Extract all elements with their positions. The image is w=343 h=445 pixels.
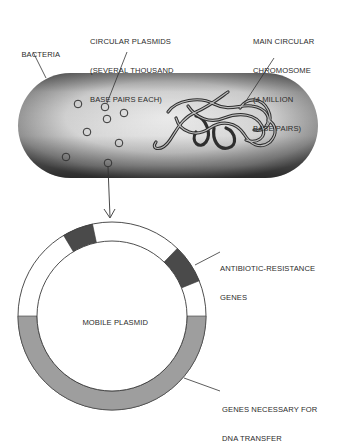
circular-plasmids-label-line: BASE PAIRS EACH) [90, 95, 174, 105]
dna-transfer-label-line: GENES NECESSARY FOR [222, 405, 317, 415]
main-chromosome-label-line: (4 MILLION [253, 95, 314, 105]
transfer-leader-line [184, 378, 220, 391]
bacteria-label: BACTERIA [17, 40, 60, 59]
resistance-leader-line [195, 252, 220, 265]
mobile-plasmid-label: MOBILE PLASMID [78, 308, 148, 327]
main-chromosome-label: MAIN CIRCULAR CHROMOSOME (4 MILLION BASE… [253, 18, 314, 143]
antibiotic-resistance-label-line: ANTIBIOTIC-RESISTANCE [220, 264, 315, 274]
antibiotic-resistance-label-line: GENES [220, 293, 315, 303]
circular-plasmids-label: CIRCULAR PLASMIDS (SEVERAL THOUSAND BASE… [90, 18, 174, 114]
main-chromosome-label-line: BASE PAIRS) [253, 124, 314, 134]
main-chromosome-label-line: CHROMOSOME [253, 66, 314, 76]
dna-transfer-label-line: DNA TRANSFER [222, 434, 317, 444]
dna-transfer-label: GENES NECESSARY FOR DNA TRANSFER [222, 386, 317, 445]
main-chromosome-label-line: MAIN CIRCULAR [253, 37, 314, 47]
antibiotic-resistance-label: ANTIBIOTIC-RESISTANCE GENES [220, 245, 315, 312]
circular-plasmids-label-line: (SEVERAL THOUSAND [90, 66, 174, 76]
circular-plasmids-label-line: CIRCULAR PLASMIDS [90, 37, 174, 47]
